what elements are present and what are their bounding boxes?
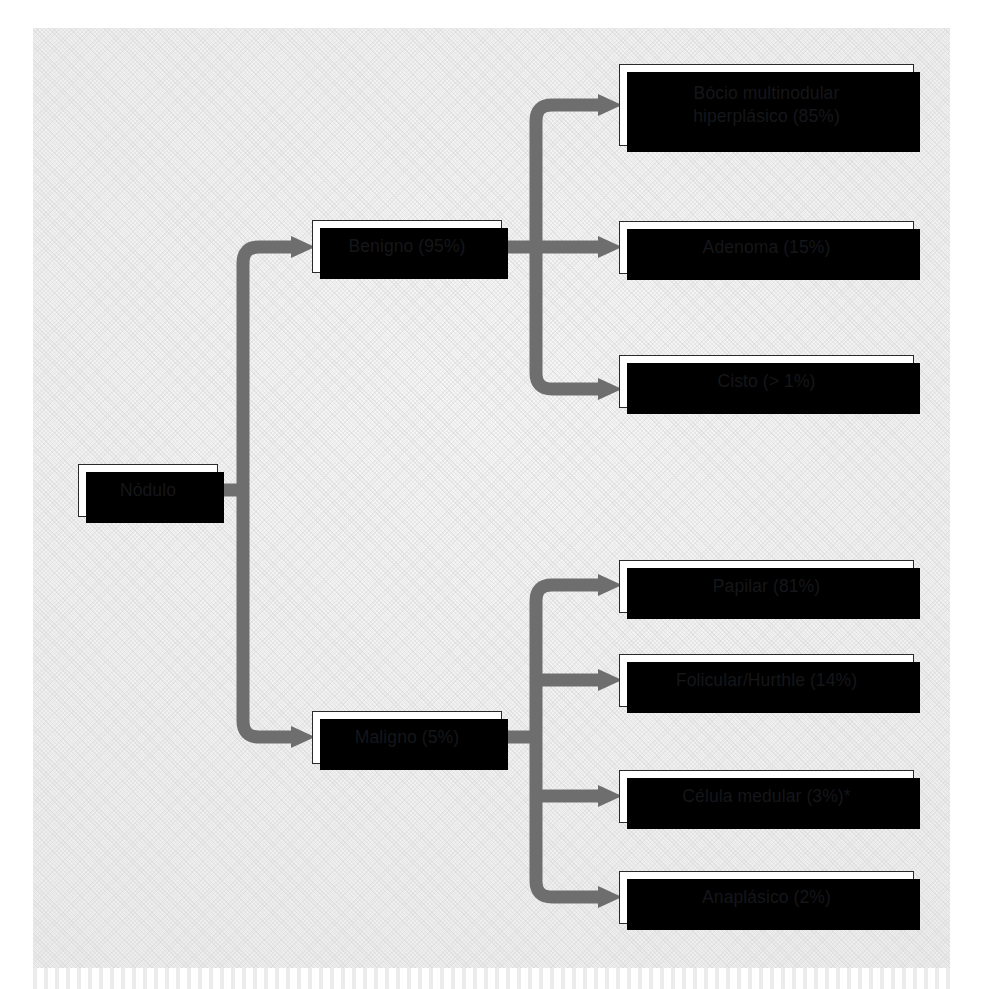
page-bleed-strip <box>33 968 950 989</box>
node-cisto-label: Cisto (> 1%) <box>710 369 824 393</box>
node-celula-medular[interactable]: Célula medular (3%)* <box>619 770 914 823</box>
node-maligno-label: Maligno (5%) <box>347 725 467 749</box>
node-folicular-hurthle[interactable]: Folicular/Hurthle (14%) <box>619 654 914 707</box>
node-bocio-multinodular-label: Bócio multinodular hiperplásico (85%) <box>685 82 848 129</box>
node-bocio-multinodular[interactable]: Bócio multinodular hiperplásico (85%) <box>619 64 914 146</box>
node-adenoma-label: Adenoma (15%) <box>695 235 839 259</box>
node-bocio-line1: Bócio multinodular <box>694 83 840 103</box>
node-nodulo-label: Nódulo <box>112 478 184 502</box>
node-folicular-hurthle-label: Folicular/Hurthle (14%) <box>668 668 865 692</box>
node-papilar-label: Papilar (81%) <box>705 574 828 598</box>
node-celula-medular-label: Célula medular (3%)* <box>674 784 858 808</box>
figure-page: .wire{ fill:none; stroke:#6e6e6e; stroke… <box>0 0 983 989</box>
node-bocio-line2: hiperplásico (85%) <box>693 106 840 126</box>
node-anaplasico[interactable]: Anaplásico (2%) <box>619 871 914 924</box>
node-maligno[interactable]: Maligno (5%) <box>312 711 502 764</box>
node-papilar[interactable]: Papilar (81%) <box>619 560 914 613</box>
node-benigno[interactable]: Benigno (95%) <box>312 220 502 273</box>
node-benigno-label: Benigno (95%) <box>340 234 473 258</box>
node-adenoma[interactable]: Adenoma (15%) <box>619 221 914 274</box>
node-nodulo[interactable]: Nódulo <box>78 464 218 517</box>
node-cisto[interactable]: Cisto (> 1%) <box>619 355 914 408</box>
node-anaplasico-label: Anaplásico (2%) <box>694 885 839 909</box>
